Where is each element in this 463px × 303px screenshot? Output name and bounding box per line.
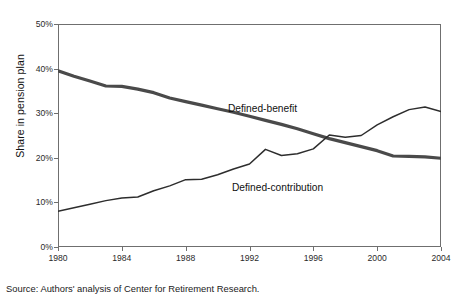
y-axis-title: Share in pension plan xyxy=(14,6,26,206)
series-label-defined-benefit: Defined-benefit xyxy=(228,103,297,114)
x-tick-mark xyxy=(186,247,187,251)
x-tick-mark xyxy=(122,247,123,251)
x-tick-label: 1992 xyxy=(240,253,259,263)
x-tick-mark xyxy=(58,247,59,251)
series-line-defined-contribution xyxy=(58,107,441,211)
y-tick-label: 20% xyxy=(36,153,53,163)
x-tick-label: 1984 xyxy=(112,253,131,263)
series-lines xyxy=(58,24,441,247)
x-tick-mark xyxy=(250,247,251,251)
x-tick-mark xyxy=(377,247,378,251)
x-tick-label: 2004 xyxy=(431,253,450,263)
plot-area: 0%10%20%30%40%50% 1980198419881992199620… xyxy=(58,24,441,247)
series-label-defined-contribution: Defined-contribution xyxy=(232,182,323,193)
y-tick-label: 0% xyxy=(41,242,53,252)
x-tick-mark xyxy=(441,247,442,251)
x-tick-label: 1996 xyxy=(304,253,323,263)
y-tick-label: 50% xyxy=(36,19,53,29)
y-tick-label: 30% xyxy=(36,108,53,118)
y-tick-label: 40% xyxy=(36,64,53,74)
y-tick-label: 10% xyxy=(36,197,53,207)
top-crop-artifact xyxy=(6,0,206,7)
series-line-defined-benefit xyxy=(58,71,441,158)
source-note: Source: Authors' analysis of Center for … xyxy=(6,283,259,294)
pension-plan-share-chart: Share in pension plan 0%10%20%30%40%50% … xyxy=(0,0,463,303)
x-tick-label: 1988 xyxy=(176,253,195,263)
x-tick-label: 1980 xyxy=(48,253,67,263)
x-tick-label: 2000 xyxy=(368,253,387,263)
x-tick-mark xyxy=(313,247,314,251)
